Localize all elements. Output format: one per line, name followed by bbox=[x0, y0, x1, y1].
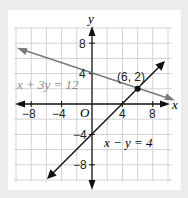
x-tick-label: −4 bbox=[52, 107, 66, 121]
intersection-label: (6, 2) bbox=[117, 70, 145, 84]
arrowhead-gray-left-icon bbox=[17, 48, 28, 55]
y-axis-arrow-down-icon bbox=[89, 180, 96, 190]
equation-label-black: x − y = 4 bbox=[103, 135, 153, 150]
line-x-plus-3y-eq-12 bbox=[22, 50, 172, 100]
x-tick-label: 8 bbox=[149, 107, 156, 121]
y-tick-label: 4 bbox=[79, 67, 86, 81]
coordinate-plane: y x O −8 −4 4 8 8 4 −4 −8 (6, 2) x + 3y … bbox=[0, 0, 188, 198]
y-tick-label: 8 bbox=[79, 37, 86, 51]
origin-label: O bbox=[80, 105, 90, 120]
x-tick-label: 4 bbox=[119, 107, 126, 121]
y-tick-label: −4 bbox=[73, 128, 87, 142]
y-axis-label: y bbox=[86, 11, 94, 26]
grid-lines bbox=[14, 28, 172, 182]
x-axis-label: x bbox=[171, 97, 178, 112]
intersection-point bbox=[135, 86, 141, 92]
equation-label-gray: x + 3y = 12 bbox=[16, 77, 79, 92]
x-tick-label: −8 bbox=[22, 107, 36, 121]
y-tick-label: −8 bbox=[73, 158, 87, 172]
